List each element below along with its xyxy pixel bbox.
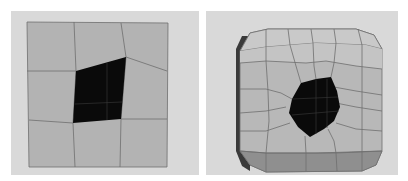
flat-mesh-render [11, 11, 199, 175]
right-viewport-panel: Subdivided rounded mesh with smoothed ho… [206, 11, 398, 175]
left-viewport-panel: Flat grid mesh with quad hole [11, 11, 199, 175]
subdivided-mesh-render [206, 11, 398, 175]
